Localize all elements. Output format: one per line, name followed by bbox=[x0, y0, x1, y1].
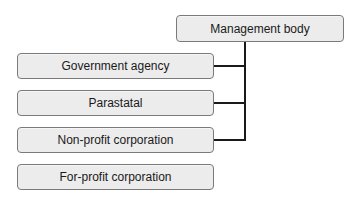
non-profit-corporation-node: Non-profit corporation bbox=[17, 127, 214, 153]
connector-non-profit-corporation bbox=[214, 139, 246, 141]
node-label: Non-profit corporation bbox=[57, 133, 173, 147]
node-label: Management body bbox=[210, 22, 309, 36]
connector-government-agency bbox=[214, 65, 245, 67]
connector-vertical bbox=[244, 42, 246, 140]
connector-parastatal bbox=[214, 102, 245, 104]
for-profit-corporation-node: For-profit corporation bbox=[17, 164, 214, 190]
parastatal-node: Parastatal bbox=[17, 90, 214, 116]
node-label: Parastatal bbox=[88, 96, 142, 110]
government-agency-node: Government agency bbox=[17, 53, 214, 79]
management-body-node: Management body bbox=[176, 15, 344, 42]
node-label: Government agency bbox=[61, 59, 169, 73]
node-label: For-profit corporation bbox=[59, 170, 171, 184]
